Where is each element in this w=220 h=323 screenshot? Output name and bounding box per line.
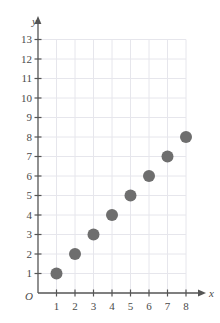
y-axis-tick-label: 11 [8,73,32,84]
y-axis-tick-label: 10 [8,93,32,104]
x-axis-tick-label: 6 [139,301,159,312]
data-point [125,190,137,202]
x-axis-tick-label: 1 [47,301,67,312]
y-axis-tick-label: 5 [8,190,32,201]
data-point [162,151,174,163]
x-axis-tick-label: 3 [84,301,104,312]
y-axis-tick-label: 4 [8,210,32,221]
data-point-markers [51,131,193,280]
x-axis-arrow-icon [198,290,206,297]
y-axis-tick-label: 2 [8,249,32,260]
data-point [180,131,192,143]
x-axis-tick-label: 8 [176,301,196,312]
y-axis-tick-label: 7 [8,151,32,162]
y-axis-tick-label: 13 [8,34,32,45]
x-axis-tick-label: 4 [102,301,122,312]
x-axis-tick-label: 2 [65,301,85,312]
plot-area [0,0,220,323]
data-point [143,170,155,182]
data-point [106,209,118,221]
y-axis-tick-label: 3 [8,229,32,240]
data-point [51,268,63,280]
y-axis-label: y [32,16,37,27]
x-axis-label: x [209,288,214,299]
y-axis-tick-label: 9 [8,112,32,123]
y-axis-tick-label: 8 [8,132,32,143]
scatter-chart: 12345678910111213 12345678 y x O [0,0,220,323]
data-point [88,229,100,241]
y-axis-tick-label: 1 [8,268,32,279]
y-axis-tick-label: 6 [8,171,32,182]
x-axis-tick-label: 5 [121,301,141,312]
y-axis-tick-label: 12 [8,54,32,65]
data-point [69,248,81,260]
grid-lines [38,40,186,294]
x-axis-tick-label: 7 [158,301,178,312]
origin-label: O [25,291,33,302]
